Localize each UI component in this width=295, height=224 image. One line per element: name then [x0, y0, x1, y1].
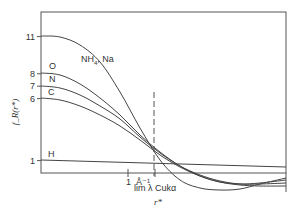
curve-h [41, 160, 286, 167]
label-o: O [49, 61, 56, 71]
label-n: N [49, 74, 56, 84]
label-nh4-na: NH4, Na [81, 54, 114, 66]
x-annotation: lim λ Cukα [134, 183, 176, 193]
y-tick-label: 7 [30, 81, 35, 91]
curve-n [41, 86, 286, 184]
plot-frame [41, 12, 286, 173]
y-axis-label: f_R(r*) [10, 99, 20, 126]
y-tick-label: 8 [30, 69, 35, 79]
y-tick-label: 1 [30, 156, 35, 166]
curve-o [41, 73, 286, 184]
label-c: C [48, 87, 55, 97]
y-axis-ticks: 118761 [26, 32, 41, 166]
y-tick-label: 11 [26, 32, 35, 42]
x-tick-label: 1 [126, 177, 131, 187]
series-curves [41, 36, 286, 190]
curve-nh4-na [41, 36, 286, 190]
label-h: H [48, 149, 55, 159]
x-axis-label: r* [154, 197, 163, 207]
scattering-factor-chart: 118761 1Å⁻¹ NH4, NaONCH lim λ Cukα r* f_… [0, 0, 295, 224]
y-tick-label: 6 [30, 94, 35, 104]
